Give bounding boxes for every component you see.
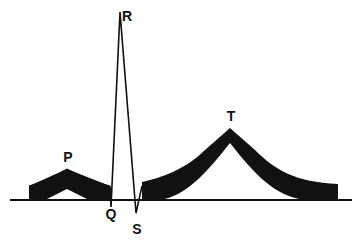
t-wave xyxy=(142,128,338,200)
label-r: R xyxy=(122,9,132,23)
label-t: T xyxy=(227,109,236,123)
label-s: S xyxy=(132,222,141,236)
qrs-complex xyxy=(110,12,142,213)
label-q: Q xyxy=(106,207,117,221)
ecg-diagram xyxy=(0,0,358,244)
p-wave xyxy=(29,169,110,200)
label-p: P xyxy=(63,150,72,164)
